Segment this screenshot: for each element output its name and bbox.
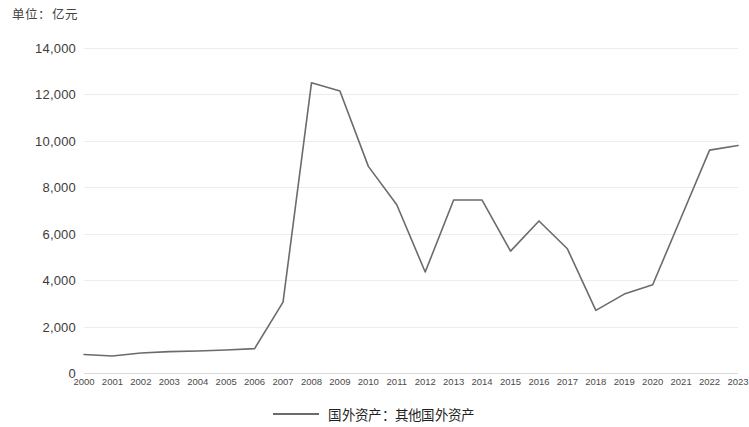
x-axis-tick-label: 2009 — [329, 376, 350, 387]
x-axis-tick-label: 2011 — [387, 376, 407, 387]
x-axis-tick-label: 2018 — [585, 376, 606, 387]
y-axis: 14,00012,00010,0008,0006,0004,0002,0000 — [0, 48, 76, 373]
x-axis-tick-label: 2003 — [159, 376, 180, 387]
x-axis-tick-label: 2022 — [699, 376, 720, 387]
y-axis-tick-label: 4,000 — [42, 273, 76, 288]
series-line-chart — [84, 48, 738, 373]
x-axis-tick-label: 2002 — [130, 376, 151, 387]
legend: 国外资产：其他国外资产 — [0, 404, 748, 424]
x-axis-tick-label: 2014 — [472, 376, 493, 387]
plot-area — [84, 48, 738, 373]
x-axis-tick-label: 2016 — [528, 376, 549, 387]
x-axis-tick-label: 2013 — [443, 376, 464, 387]
x-axis-tick-label: 2021 — [671, 376, 692, 387]
legend-series-label: 国外资产：其他国外资产 — [328, 404, 474, 424]
x-axis-tick-label: 2008 — [301, 376, 322, 387]
y-axis-tick-label: 8,000 — [42, 180, 76, 195]
x-axis-tick-label: 2020 — [642, 376, 663, 387]
x-axis-tick-label: 2023 — [727, 376, 748, 387]
x-axis-tick-label: 2004 — [187, 376, 208, 387]
y-axis-tick-label: 14,000 — [35, 41, 76, 56]
x-axis-tick-label: 2006 — [244, 376, 265, 387]
y-axis-tick-label: 6,000 — [42, 226, 76, 241]
gridline — [84, 373, 738, 374]
y-axis-tick-label: 12,000 — [35, 87, 76, 102]
y-axis-tick-label: 10,000 — [35, 133, 76, 148]
x-axis-tick-label: 2007 — [272, 376, 293, 387]
x-axis: 2000200120022003200420052006200720082009… — [84, 376, 738, 394]
x-axis-tick-label: 2019 — [614, 376, 635, 387]
x-axis-tick-label: 2010 — [358, 376, 379, 387]
y-axis-tick-label: 2,000 — [42, 319, 76, 334]
x-axis-tick-label: 2015 — [500, 376, 521, 387]
x-axis-tick-label: 2001 — [102, 376, 123, 387]
legend-line-swatch — [273, 413, 319, 415]
x-axis-tick-label: 2017 — [557, 376, 578, 387]
series-line-foreign-assets — [84, 83, 738, 356]
x-axis-tick-label: 2005 — [216, 376, 237, 387]
x-axis-tick-label: 2012 — [415, 376, 436, 387]
unit-caption: 单位：亿元 — [12, 4, 78, 23]
x-axis-tick-label: 2000 — [73, 376, 94, 387]
